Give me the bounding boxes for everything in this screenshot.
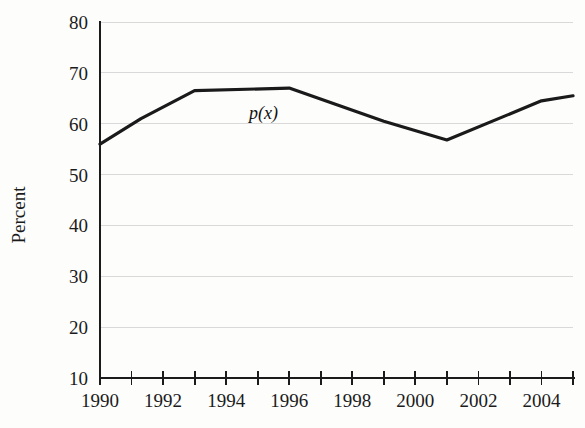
y-axis-tick-label: 30 xyxy=(69,266,88,287)
x-axis-tick-label: 2000 xyxy=(396,390,434,411)
x-axis-tick-label: 1992 xyxy=(144,390,182,411)
y-axis-tick-labels-group: 1020304050607080 xyxy=(69,12,88,389)
y-axis-tick-label: 60 xyxy=(69,114,88,135)
x-axis-tick-label: 2004 xyxy=(522,390,561,411)
gridlines-group xyxy=(100,22,573,327)
series-label-px: p(x) xyxy=(247,103,278,124)
x-axis-tick-label: 2002 xyxy=(459,390,497,411)
y-axis-tick-label: 80 xyxy=(69,12,88,33)
x-axis-tick-label: 1990 xyxy=(81,390,119,411)
x-axis-tick-labels-group: 19901992199419961998200020022004 xyxy=(81,390,561,411)
y-axis-tick-label: 70 xyxy=(69,63,88,84)
y-axis-tick-label: 50 xyxy=(69,165,88,186)
data-series-line xyxy=(100,88,573,144)
x-axis-tick-label: 1994 xyxy=(207,390,246,411)
y-axis-tick-label: 10 xyxy=(69,368,88,389)
y-axis-tick-label: 20 xyxy=(69,317,88,338)
axes-group xyxy=(99,21,575,378)
line-chart: 1020304050607080 19901992199419961998200… xyxy=(0,0,585,428)
x-axis-tick-label: 1998 xyxy=(333,390,371,411)
x-axis-tick-label: 1996 xyxy=(270,390,308,411)
y-axis-title: Percent xyxy=(8,186,29,244)
chart-canvas: 1020304050607080 19901992199419961998200… xyxy=(0,0,585,428)
y-axis-tick-label: 40 xyxy=(69,215,88,236)
